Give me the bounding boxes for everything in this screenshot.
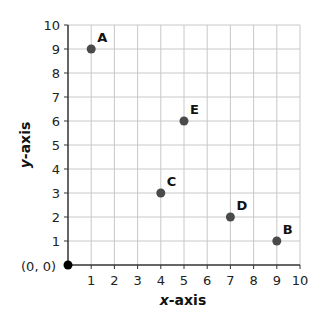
- scatter-chart: 12345678910 12345678910 ABCDE (0, 0) x-a…: [0, 0, 325, 322]
- data-point-e: [180, 117, 189, 126]
- y-tick-label: 8: [52, 66, 60, 81]
- x-tick-label: 5: [180, 273, 188, 288]
- x-tick-label: 1: [87, 273, 95, 288]
- data-point-d: [226, 213, 235, 222]
- data-point-b: [272, 237, 281, 246]
- point-label-d: D: [236, 198, 247, 213]
- point-label-e: E: [190, 102, 199, 117]
- grid-lines: [68, 25, 300, 265]
- x-tick-label: 6: [203, 273, 211, 288]
- x-tick-label: 7: [226, 273, 234, 288]
- x-axis-label: x-axis: [159, 292, 206, 308]
- y-tick-label: 6: [52, 114, 60, 129]
- point-label-b: B: [283, 222, 293, 237]
- origin-point: [64, 261, 73, 270]
- y-tick-label: 2: [52, 210, 60, 225]
- x-tick-label: 9: [273, 273, 281, 288]
- y-tick-label: 3: [52, 186, 60, 201]
- y-tick-label: 5: [52, 138, 60, 153]
- x-tick-label: 2: [110, 273, 118, 288]
- y-tick-label: 7: [52, 90, 60, 105]
- y-axis-label: y-axis: [17, 122, 33, 169]
- x-tick-label: 4: [157, 273, 165, 288]
- data-point-a: [87, 45, 96, 54]
- data-points: ABCDE: [64, 30, 293, 270]
- y-tick-label: 1: [52, 234, 60, 249]
- point-label-a: A: [97, 30, 107, 45]
- x-tick-label: 3: [133, 273, 141, 288]
- point-label-c: C: [167, 174, 177, 189]
- data-point-c: [156, 189, 165, 198]
- y-axis-ticks: 12345678910: [43, 18, 68, 249]
- x-tick-label: 8: [249, 273, 257, 288]
- y-tick-label: 10: [43, 18, 60, 33]
- origin-label: (0, 0): [21, 259, 56, 274]
- x-axis-ticks: 12345678910: [87, 265, 308, 288]
- x-tick-label: 10: [292, 273, 309, 288]
- y-tick-label: 4: [52, 162, 60, 177]
- y-tick-label: 9: [52, 42, 60, 57]
